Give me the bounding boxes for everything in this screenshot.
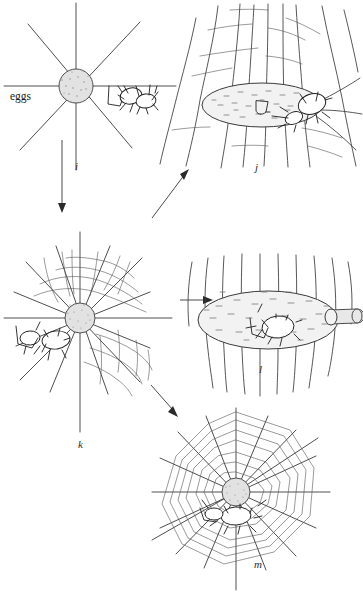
panel-label-m: m (254, 558, 262, 570)
arrow-k-to-m (151, 385, 178, 417)
figure-canvas (0, 0, 363, 596)
panel-label-j: j (255, 161, 258, 173)
panel-i-hub (59, 69, 93, 103)
panel-label-k: k (78, 438, 83, 450)
panel-k-spiral-lower (84, 330, 152, 396)
panel-k-spiral-upper (34, 250, 146, 312)
arrow-i-to-j (152, 169, 189, 218)
panel-label-l: l (259, 363, 262, 375)
arrow-k-to-l (180, 296, 213, 304)
panel-l-tube (325, 309, 363, 325)
panel-m-drawing (152, 408, 330, 590)
panel-l-drawing (188, 254, 363, 396)
panel-k-drawing (4, 232, 172, 432)
figure-root: eggs i j k l m (0, 0, 363, 596)
panel-k-spider (16, 322, 71, 360)
panel-i-spider (108, 85, 158, 114)
eggs-label: eggs (10, 90, 31, 102)
panel-label-i: i (75, 160, 78, 172)
arrow-i-to-k (58, 140, 66, 213)
panel-i-drawing (4, 3, 176, 170)
panel-k-hub (65, 303, 95, 333)
panel-j-drawing (160, 4, 362, 168)
panel-m-hub (222, 478, 250, 506)
